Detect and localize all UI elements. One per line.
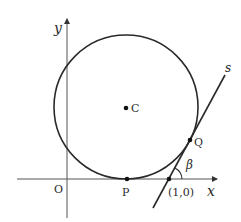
label-beta: β <box>185 158 193 172</box>
label-x-intercept: (1,0) <box>168 186 194 199</box>
x-axis-label: x <box>207 183 215 199</box>
label-s: s <box>225 61 231 75</box>
label-q: Q <box>194 136 203 149</box>
point-q <box>188 138 193 143</box>
label-c: C <box>131 102 139 115</box>
origin-label: O <box>54 183 63 196</box>
label-p: P <box>122 186 130 199</box>
angle-arc-beta <box>175 168 182 179</box>
point-p <box>125 177 130 182</box>
diagram-canvas: y x O C P Q (1,0) s β <box>0 0 241 222</box>
point-x-intercept <box>167 177 172 182</box>
point-c <box>124 106 129 111</box>
y-axis-label: y <box>53 20 63 36</box>
